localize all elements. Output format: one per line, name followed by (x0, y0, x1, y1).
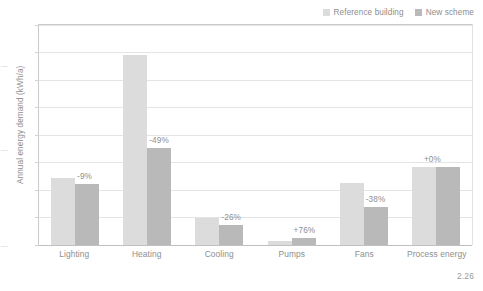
data-label-pumps: +76% (294, 226, 316, 235)
bar-pumps-reference-building (268, 241, 292, 245)
page-edge-mark (1, 150, 8, 151)
legend-item-new-scheme: New scheme (415, 8, 474, 17)
bar-group-pumps: +76% (256, 25, 328, 245)
bar-lighting-reference-building (51, 178, 75, 245)
bar-heating-reference-building (123, 55, 147, 245)
y-axis-title: Annual energy demand (kWh/a) (16, 24, 28, 184)
legend-item-reference-building: Reference building (323, 8, 404, 17)
data-label-lighting: -9% (77, 172, 92, 181)
legend-swatch-new-scheme (415, 9, 422, 16)
x-label-process-energy: Process energy (401, 249, 474, 259)
bar-lighting-new-scheme (75, 184, 99, 245)
bar-heating-new-scheme (147, 148, 171, 245)
chart-legend: Reference building New scheme (323, 8, 474, 17)
bar-pumps-new-scheme (292, 238, 316, 245)
bar-process-energy-new-scheme (436, 167, 460, 245)
x-label-lighting: Lighting (38, 249, 111, 259)
figure-container: Reference building New scheme Annual ene… (0, 0, 483, 291)
bar-fans-reference-building (340, 183, 364, 245)
x-label-heating: Heating (111, 249, 184, 259)
legend-label-new-scheme: New scheme (426, 8, 474, 17)
y-axis-tick (35, 245, 39, 246)
bar-groups: -9%-49%-26%+76%-38%+0% (39, 25, 472, 245)
x-label-cooling: Cooling (183, 249, 256, 259)
figure-number: 2.26 (457, 271, 474, 281)
legend-swatch-reference-building (323, 9, 330, 16)
bar-group-heating: -49% (111, 25, 183, 245)
bar-group-lighting: -9% (39, 25, 111, 245)
data-label-cooling: -26% (221, 213, 241, 222)
data-label-fans: -38% (366, 195, 386, 204)
x-axis-line (39, 245, 472, 246)
bar-cooling-new-scheme (219, 225, 243, 245)
page-edge-mark (1, 66, 8, 67)
bar-process-energy-reference-building (412, 167, 436, 245)
bar-fans-new-scheme (364, 207, 388, 246)
bar-group-cooling: -26% (183, 25, 255, 245)
page-edge-mark (1, 246, 8, 247)
bar-group-fans: -38% (328, 25, 400, 245)
x-axis-labels: LightingHeatingCoolingPumpsFansProcess e… (38, 249, 473, 259)
bar-cooling-reference-building (195, 218, 219, 246)
x-label-pumps: Pumps (256, 249, 329, 259)
bar-group-process-energy: +0% (400, 25, 472, 245)
plot-area: -9%-49%-26%+76%-38%+0% (38, 24, 473, 245)
data-label-process-energy: +0% (424, 155, 441, 164)
x-label-fans: Fans (328, 249, 401, 259)
data-label-heating: -49% (149, 136, 169, 145)
legend-label-reference-building: Reference building (334, 8, 404, 17)
